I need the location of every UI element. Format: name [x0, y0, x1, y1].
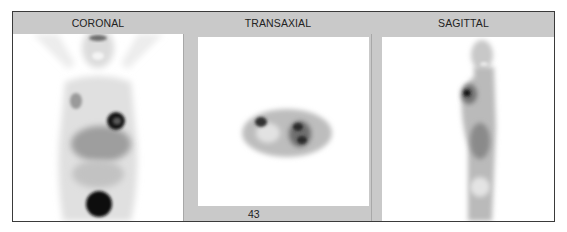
- coronal-view[interactable]: [13, 34, 183, 221]
- pet-viewer-frame: CORONAL TRANSAXIAL SAGITTAL: [12, 11, 555, 222]
- coronal-header: CORONAL: [13, 12, 183, 34]
- sagittal-body-image: [382, 37, 554, 221]
- transaxial-view[interactable]: [198, 37, 369, 206]
- sagittal-view[interactable]: [382, 37, 554, 221]
- sagittal-header: SAGITTAL: [373, 12, 554, 34]
- panel-divider: [371, 34, 372, 221]
- transaxial-body-image: [198, 37, 369, 206]
- transaxial-header: TRANSAXIAL: [185, 12, 371, 34]
- coronal-body-image: [13, 34, 183, 221]
- panel-divider: [183, 34, 184, 221]
- slice-number: 43: [248, 208, 260, 220]
